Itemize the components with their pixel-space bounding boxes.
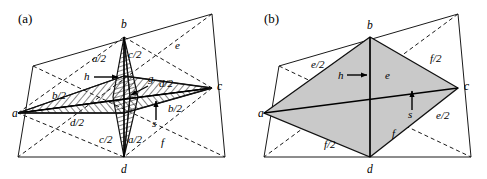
panel-a-label-d-over-2-right: d/2 [159, 77, 174, 89]
panel-a-label-c-over-2-upper: c/2 [128, 48, 142, 60]
panel-a-tag: (a) [18, 11, 32, 26]
panel-b-vertex-b: b [367, 19, 373, 31]
panel-b-label-height-h: h [338, 69, 344, 81]
panel-a-vertex-a: a [12, 107, 18, 119]
panel-b-vertex-a: a [258, 107, 264, 119]
panel-b-label-e-over-2-lower-right: e/2 [436, 109, 450, 121]
panel-b-tag: (b) [264, 11, 279, 26]
panel-a-label-c-over-2-lower: c/2 [99, 133, 113, 145]
panel-a-label-a-over-2-lower: a/2 [128, 133, 143, 145]
panel-b-inner-quad [264, 37, 458, 157]
panel-b-vertex-d: d [367, 163, 373, 175]
figure-svg: (a) a b c d a/2 c/2 c/2 a/2 b/2 b/2 d/2 … [0, 0, 487, 179]
panel-a-vertex-b: b [121, 18, 127, 30]
panel-a-label-height-h: h [84, 70, 90, 82]
panel-a-vertex-d: d [121, 163, 127, 175]
panel-b-label-diagonal-e: e [385, 69, 390, 81]
panel-b-label-f-over-2-lower-left: f/2 [324, 138, 336, 150]
figure-container: (a) a b c d a/2 c/2 c/2 a/2 b/2 b/2 d/2 … [0, 0, 487, 179]
panel-a-label-b-over-2-left: b/2 [52, 89, 67, 101]
panel-b-label-height-s: s [408, 108, 412, 120]
panel-b-label-f-over-2-upper-right: f/2 [430, 52, 442, 64]
panel-b-label-e-over-2-upper-left: e/2 [311, 58, 325, 70]
panel-b: (b) a b c d e/2 f/2 f/2 e/2 e f h s [258, 11, 471, 175]
panel-a: (a) a b c d a/2 c/2 c/2 a/2 b/2 b/2 d/2 … [12, 11, 225, 175]
panel-a-label-diagonal-f: f [161, 136, 166, 148]
panel-a-label-d-over-2-left: d/2 [70, 116, 85, 128]
panel-a-label-gap-g: g [148, 72, 154, 84]
panel-a-vertex-c: c [217, 80, 222, 92]
panel-a-label-height-s: s [152, 117, 156, 129]
panel-a-label-diagonal-e: e [175, 39, 180, 51]
panel-a-label-b-over-2-right: b/2 [168, 102, 183, 114]
panel-a-label-a-over-2-upper: a/2 [92, 52, 107, 64]
panel-b-vertex-c: c [464, 80, 469, 92]
